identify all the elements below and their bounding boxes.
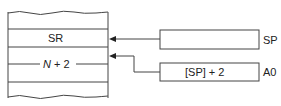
n-plus-2-rest: + 2: [51, 58, 70, 70]
a0-pointer-line: [114, 56, 160, 72]
a0-arrowhead-icon: [109, 53, 116, 59]
memory-cell-n-plus-2: N + 2: [43, 58, 70, 70]
wavy-top-edge: [8, 11, 108, 14]
wavy-bottom-edge: [8, 95, 108, 98]
memory-column: [8, 11, 108, 98]
sp-register-box: [160, 30, 259, 49]
memory-cell-sr: SR: [48, 32, 63, 44]
sp-arrowhead-icon: [109, 36, 116, 42]
pointer-arrows: [114, 39, 160, 72]
stack-diagram: [0, 0, 281, 106]
a0-register-name: A0: [263, 66, 276, 78]
sp-register-name: SP: [263, 34, 278, 46]
a0-register-contents: [SP] + 2: [185, 66, 224, 78]
n-variable: N: [43, 58, 51, 70]
